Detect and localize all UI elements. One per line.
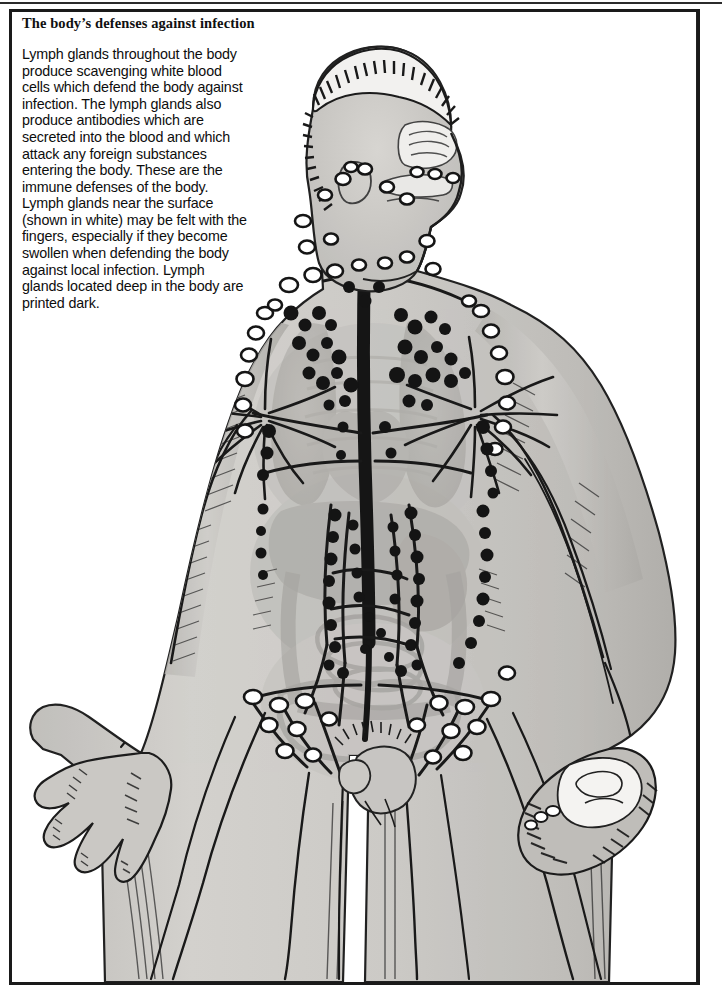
caption-line: produce antibodies which are [22,112,280,129]
caption-line: swollen when defending the body [22,245,280,262]
caption-line: entering the body. These are the [22,162,280,179]
page-title: The body’s defenses against infection [22,16,280,32]
caption-block: The body’s defenses against infection Ly… [22,16,280,311]
top-rule [0,2,722,4]
caption-line: (shown in white) may be felt with the [22,212,280,229]
caption-line: Lymph glands near the surface [22,195,280,212]
caption-paragraph: Lymph glands throughout the body produce… [22,46,280,312]
caption-line: secreted into the blood and which [22,129,280,146]
caption-line: immune defenses of the body. [22,179,280,196]
caption-line: printed dark. [22,295,280,312]
caption-line: against local infection. Lymph [22,262,280,279]
caption-line: produce scavenging white blood [22,63,280,80]
caption-line: glands located deep in the body are [22,278,280,295]
caption-line: Lymph glands throughout the body [22,46,280,63]
caption-line: attack any foreign substances [22,146,280,163]
caption-line: cells which defend the body against [22,79,280,96]
caption-line: fingers, especially if they become [22,228,280,245]
caption-line: infection. The lymph glands also [22,96,280,113]
